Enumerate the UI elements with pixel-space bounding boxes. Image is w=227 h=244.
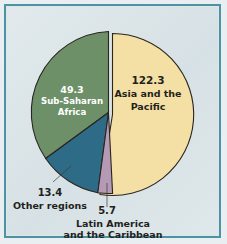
pie-chart: 122.3 Asia and the Pacific 49.3 Sub-Saha… bbox=[0, 0, 227, 244]
slice-value-latin-america-and-the-caribbean: 5.7 bbox=[98, 205, 116, 216]
slice-name-sub-saharan-africa-line1: Sub-Saharan bbox=[41, 96, 103, 106]
slice-name-asia-and-the-pacific-line2: Pacific bbox=[131, 101, 166, 112]
slice-value-other-regions: 13.4 bbox=[38, 187, 63, 198]
slice-name-other-regions: Other regions bbox=[13, 200, 87, 211]
slice-label-other-regions: 13.4 Other regions bbox=[13, 187, 87, 211]
slice-name-asia-and-the-pacific-line1: Asia and the bbox=[114, 88, 181, 99]
chart-figure: 122.3 Asia and the Pacific 49.3 Sub-Saha… bbox=[0, 0, 227, 244]
slice-value-sub-saharan-africa: 49.3 bbox=[60, 84, 83, 95]
slice-value-asia-and-the-pacific: 122.3 bbox=[131, 74, 164, 86]
slice-name-latin-america-line2: and the Caribbean bbox=[64, 229, 163, 240]
slice-name-latin-america-line1: Latin America bbox=[76, 218, 150, 229]
pie-slice-asia-and-the-pacific[interactable] bbox=[100, 33, 194, 195]
slice-name-sub-saharan-africa-line2: Africa bbox=[58, 107, 87, 117]
